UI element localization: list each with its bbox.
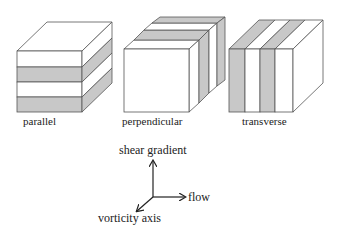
axis-label-flow: flow [188, 190, 210, 204]
axes [137, 161, 185, 211]
arrow-diagonal-icon [137, 197, 153, 211]
label-perpendicular: perpendicular [122, 115, 183, 127]
axis-label-vorticity: vorticity axis [98, 211, 161, 225]
label-parallel: parallel [23, 115, 56, 127]
cube-parallel [17, 22, 112, 112]
label-transverse: transverse [242, 115, 287, 127]
axis-label-shear-gradient: shear gradient [119, 143, 187, 157]
orientation-diagram: parallel perpendicular transverse shear … [0, 0, 341, 238]
cube-perpendicular [124, 17, 225, 112]
cube-transverse [229, 20, 323, 112]
